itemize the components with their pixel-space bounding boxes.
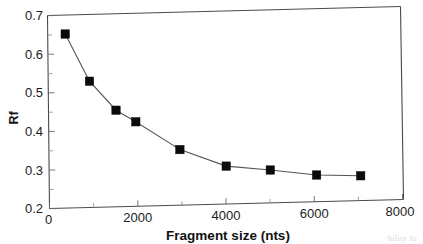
y-tick-label-0.5: 0.5 [25,85,43,100]
data-point-4050 [222,162,230,170]
data-point-3000 [176,145,184,153]
x-tick-label-2000: 2000 [123,210,152,225]
series-line-rf [65,34,361,176]
frame-right-edge [401,7,404,200]
plot-frame [48,7,404,209]
x-tick-label-8000: 8000 [386,204,415,219]
y-axis-title: Rf [7,111,21,125]
data-point-1550 [112,106,120,114]
x-tick-label-0: 0 [45,212,52,227]
scan-artifact-caption: bility fo [388,234,417,243]
y-tick-label-0.4: 0.4 [25,124,43,139]
rf-vs-fragment-size-chart: 0.7 0.6 0.5 0.4 0.3 0.2 0 2000 4000 6000… [0,0,423,244]
y-tick-label-0.7: 0.7 [25,8,43,23]
y-tick-label-0.3: 0.3 [25,163,43,178]
y-tick-label-0.6: 0.6 [25,47,43,62]
frame-top-edge [48,7,401,16]
y-tick-label-0.2: 0.2 [25,201,43,216]
x-axis-title: Fragment size (nts) [166,228,290,243]
data-point-950 [85,77,93,85]
x-tick-label-4000: 4000 [212,208,241,223]
chart-figure: 0.7 0.6 0.5 0.4 0.3 0.2 0 2000 4000 6000… [0,0,423,244]
x-tick-label-6000: 6000 [300,206,329,221]
series-markers [61,30,365,180]
data-point-2000 [132,118,140,126]
data-point-400 [61,30,69,38]
y-tick-labels: 0.7 0.6 0.5 0.4 0.3 0.2 [25,8,43,216]
data-point-6100 [312,171,320,179]
data-point-7100 [357,172,365,180]
data-point-5050 [266,166,274,174]
